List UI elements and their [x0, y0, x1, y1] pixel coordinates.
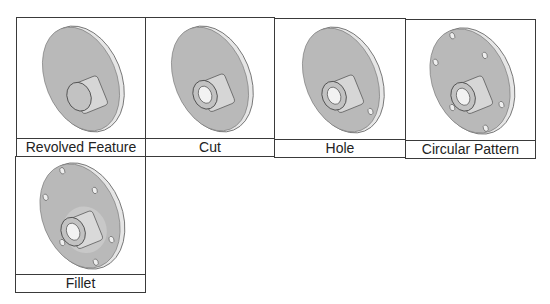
- flange-pattern-icon: [406, 20, 535, 140]
- caption-revolved-feature: Revolved Feature: [17, 139, 145, 156]
- panel-cut: Cut: [145, 17, 275, 157]
- circular-pattern-image: [406, 20, 535, 141]
- caption-hole: Hole: [275, 140, 405, 157]
- caption-circular-pattern: Circular Pattern: [406, 141, 535, 158]
- panel-circular-pattern: Circular Pattern: [405, 19, 536, 159]
- hole-image: [275, 19, 405, 140]
- flange-revolved-icon: [17, 18, 145, 138]
- flange-fillet-icon: [16, 157, 145, 274]
- caption-fillet: Fillet: [16, 275, 145, 292]
- flange-hole-icon: [275, 19, 405, 139]
- revolved-feature-image: [17, 18, 145, 139]
- caption-cut: Cut: [146, 139, 274, 156]
- fillet-image: [16, 157, 145, 275]
- panel-fillet: Fillet: [15, 156, 146, 293]
- panel-hole: Hole: [274, 18, 406, 158]
- cut-image: [146, 18, 274, 139]
- panel-revolved-feature: Revolved Feature: [16, 17, 146, 157]
- flange-cut-icon: [146, 18, 274, 138]
